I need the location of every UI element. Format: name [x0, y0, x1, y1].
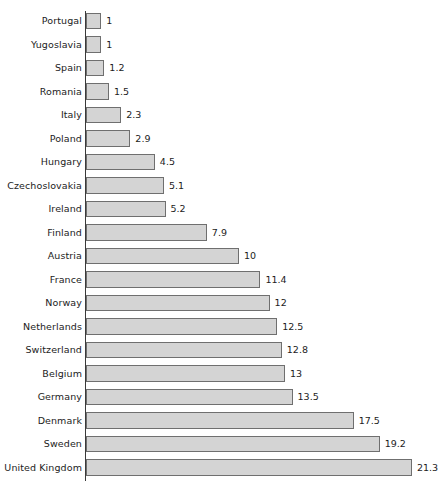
bar	[86, 224, 207, 241]
category-label: Finland	[0, 227, 82, 239]
category-label: Poland	[0, 133, 82, 145]
category-label: Hungary	[0, 156, 82, 168]
category-label: Spain	[0, 62, 82, 74]
category-label: Yugoslavia	[0, 39, 82, 51]
bar	[86, 459, 412, 476]
bar	[86, 412, 354, 429]
category-label: Netherlands	[0, 321, 82, 333]
bar-row: Austria10	[0, 247, 445, 271]
bar	[86, 177, 164, 194]
bar-row: Hungary4.5	[0, 153, 445, 177]
bar-value-label: 12.5	[282, 321, 303, 333]
bar-value-label: 12	[275, 297, 287, 309]
bar-row: Ireland5.2	[0, 200, 445, 224]
bar-value-label: 5.1	[169, 180, 184, 192]
bar-row: Norway12	[0, 294, 445, 318]
bar-value-label: 7.9	[212, 227, 227, 239]
bar-value-label: 11.4	[265, 274, 286, 286]
category-label: Germany	[0, 391, 82, 403]
bar-value-label: 19.2	[385, 438, 406, 450]
bar	[86, 13, 101, 30]
bar-row: Italy2.3	[0, 106, 445, 130]
bar-row: Finland7.9	[0, 224, 445, 248]
category-label: United Kingdom	[0, 462, 82, 474]
bar-row: Poland2.9	[0, 130, 445, 154]
bar-row: Czechoslovakia5.1	[0, 177, 445, 201]
bar-row: United Kingdom21.3	[0, 459, 445, 483]
bar-value-label: 5.2	[171, 203, 186, 215]
bar	[86, 248, 239, 265]
bar-row: Sweden19.2	[0, 435, 445, 459]
bar-value-label: 13.5	[298, 391, 319, 403]
bar-row: Portugal1	[0, 12, 445, 36]
bar	[86, 201, 166, 218]
bar-chart: Portugal1Yugoslavia1Spain1.2Romania1.5It…	[0, 0, 445, 487]
bar-row: Netherlands12.5	[0, 318, 445, 342]
bar-value-label: 13	[290, 368, 302, 380]
category-label: Norway	[0, 297, 82, 309]
bar-row: Denmark17.5	[0, 412, 445, 436]
bar-row: Switzerland12.8	[0, 341, 445, 365]
bar-value-label: 21.3	[417, 462, 438, 474]
chart-title	[95, 0, 435, 1]
bar	[86, 342, 282, 359]
bar-value-label: 17.5	[359, 415, 380, 427]
bar	[86, 436, 380, 453]
bar	[86, 154, 155, 171]
bar	[86, 295, 270, 312]
bar	[86, 389, 293, 406]
bar-row: France11.4	[0, 271, 445, 295]
bar	[86, 107, 121, 124]
category-label: Romania	[0, 86, 82, 98]
bar-value-label: 1	[106, 15, 112, 27]
bar-value-label: 10	[244, 250, 256, 262]
category-label: Austria	[0, 250, 82, 262]
category-label: Italy	[0, 109, 82, 121]
plot-area: Portugal1Yugoslavia1Spain1.2Romania1.5It…	[0, 11, 445, 483]
bar-value-label: 12.8	[287, 344, 308, 356]
bar-row: Romania1.5	[0, 83, 445, 107]
bar-value-label: 1.5	[114, 86, 129, 98]
bar	[86, 83, 109, 100]
bar	[86, 365, 285, 382]
bar-value-label: 1.2	[109, 62, 124, 74]
category-label: Ireland	[0, 203, 82, 215]
bar-row: Germany13.5	[0, 388, 445, 412]
category-label: Portugal	[0, 15, 82, 27]
bar-row: Spain1.2	[0, 59, 445, 83]
category-label: France	[0, 274, 82, 286]
bar	[86, 36, 101, 53]
category-label: Belgium	[0, 368, 82, 380]
bar-row: Yugoslavia1	[0, 36, 445, 60]
bar	[86, 271, 260, 288]
category-label: Switzerland	[0, 344, 82, 356]
bar-value-label: 2.9	[135, 133, 150, 145]
category-label: Sweden	[0, 438, 82, 450]
category-label: Czechoslovakia	[0, 180, 82, 192]
bar-value-label: 4.5	[160, 156, 175, 168]
bar-value-label: 2.3	[126, 109, 141, 121]
bar	[86, 318, 277, 335]
bar	[86, 130, 130, 147]
bar-row: Belgium13	[0, 365, 445, 389]
bar-value-label: 1	[106, 39, 112, 51]
bar	[86, 60, 104, 77]
category-label: Denmark	[0, 415, 82, 427]
